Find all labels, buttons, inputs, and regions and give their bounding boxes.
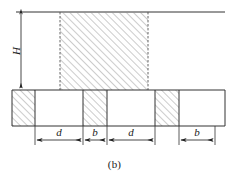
height-dimension-label: H: [10, 46, 22, 56]
width-dimension-b1: b: [85, 126, 105, 140]
strip-segment-hatched: [12, 90, 35, 126]
width-dimension-label: b: [92, 126, 98, 138]
cross-section-diagram: H: [0, 0, 229, 181]
figure-container: H: [0, 0, 229, 181]
strip-segment-hatched: [155, 90, 179, 126]
strip-segment-hatched: [83, 90, 107, 126]
width-dimension-label: d: [128, 126, 134, 138]
width-dimension-label: d: [56, 126, 62, 138]
width-dimension-d1: d: [37, 126, 81, 140]
width-dimensions: d b d b: [37, 126, 213, 140]
dimension-extension-lines: [35, 126, 215, 145]
column-block: [60, 12, 148, 90]
width-dimension-b2: b: [181, 126, 213, 140]
height-dimension: H: [10, 14, 22, 88]
strip-footing: [12, 90, 225, 126]
width-dimension-d2: d: [109, 126, 153, 140]
figure-caption: (b): [0, 158, 229, 170]
width-dimension-label: b: [194, 126, 200, 138]
